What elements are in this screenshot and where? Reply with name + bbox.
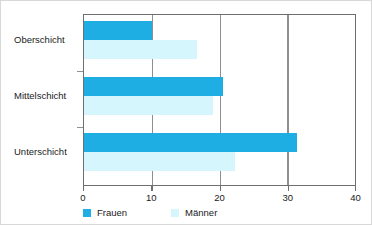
x-axis-label-30: 30: [282, 192, 293, 203]
bar-unterschicht-frauen: [84, 133, 297, 152]
y-axis-tick-1: [77, 71, 83, 72]
legend-entry-frauen: Frauen: [83, 208, 127, 218]
y-axis-tick-2: [77, 127, 83, 128]
y-axis-label-mittelschicht: Mittelschicht: [14, 90, 66, 101]
legend-swatch-maenner-icon: [171, 209, 179, 217]
bar-oberschicht-frauen: [84, 21, 152, 40]
bar-group-mittelschicht: [84, 77, 357, 115]
bar-group-oberschicht: [84, 21, 357, 59]
x-axis-tick-30: [288, 186, 289, 191]
x-axis-tick-10: [151, 186, 152, 191]
x-axis-label-0: 0: [80, 192, 85, 203]
y-axis-label-oberschicht: Oberschicht: [14, 34, 65, 45]
bar-mittelschicht-maenner: [84, 96, 213, 115]
x-axis-tick-0: [83, 186, 84, 191]
legend-label-maenner: Männer: [185, 208, 217, 218]
bar-unterschicht-maenner: [84, 152, 235, 171]
bar-group-unterschicht: [84, 133, 357, 171]
legend-entry-maenner: Männer: [171, 208, 217, 218]
x-axis-label-20: 20: [214, 192, 225, 203]
x-axis-label-10: 10: [146, 192, 157, 203]
x-axis-label-40: 40: [350, 192, 361, 203]
plot-area: [83, 14, 356, 186]
legend-label-frauen: Frauen: [97, 208, 127, 218]
bar-oberschicht-maenner: [84, 40, 197, 59]
y-axis-label-unterschicht: Unterschicht: [14, 146, 67, 157]
bar-mittelschicht-frauen: [84, 77, 223, 96]
x-axis-tick-20: [220, 186, 221, 191]
chart-figure: Oberschicht Mittelschicht Unterschicht 0…: [0, 0, 372, 225]
x-axis-tick-40: [355, 186, 356, 191]
legend-swatch-frauen-icon: [83, 209, 91, 217]
chart-legend: Frauen Männer: [83, 208, 217, 218]
